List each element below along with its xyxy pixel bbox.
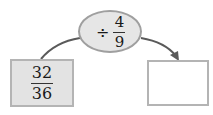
operation: ÷ 4 9 xyxy=(96,15,125,50)
operation-fraction: 4 9 xyxy=(113,15,125,50)
input-denominator: 36 xyxy=(32,86,52,102)
input-box: 32 36 xyxy=(10,59,74,107)
divide-icon: ÷ xyxy=(96,23,109,42)
answer-box[interactable] xyxy=(147,60,209,106)
connector-line xyxy=(41,38,80,59)
input-fraction: 32 36 xyxy=(12,65,72,102)
input-numerator: 32 xyxy=(32,65,52,81)
operation-numerator: 4 xyxy=(115,15,125,30)
arrow-line xyxy=(141,38,176,56)
operation-oval: ÷ 4 9 xyxy=(78,10,142,53)
operation-denominator: 9 xyxy=(115,35,125,50)
